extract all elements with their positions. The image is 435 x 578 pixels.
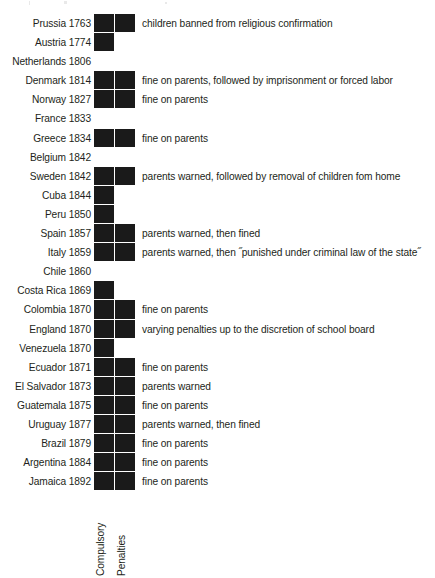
cell-compulsory [94, 472, 115, 491]
cell-penalties [115, 129, 136, 148]
row-marks [94, 358, 136, 377]
cell-compulsory [94, 281, 115, 300]
cell-penalties [115, 148, 136, 167]
row-label-country-year: Norway 1827 [0, 90, 94, 109]
table-row: France 1833 [0, 109, 435, 128]
cell-penalties [115, 224, 136, 243]
row-label-country-year: Austria 1774 [0, 33, 94, 52]
row-marks [94, 339, 136, 358]
row-label-country-year: Argentina 1884 [0, 453, 94, 472]
cell-compulsory [94, 52, 115, 71]
row-marks [94, 109, 136, 128]
row-marks [94, 243, 136, 262]
table-row: Venezuela 1870 [0, 339, 435, 358]
cell-penalties [115, 205, 136, 224]
table-row: Sweden 1842parents warned, followed by r… [0, 167, 435, 186]
cell-compulsory [94, 186, 115, 205]
cell-penalties [115, 52, 136, 71]
row-penalty-description: parents warned, followed by removal of c… [136, 167, 400, 186]
cell-compulsory [94, 453, 115, 472]
row-label-country-year: Ecuador 1871 [0, 358, 94, 377]
cell-compulsory [94, 205, 115, 224]
row-penalty-description: fine on parents [136, 434, 208, 453]
table-row: Italy 1859parents warned, then ˝punished… [0, 243, 435, 262]
row-marks [94, 262, 136, 281]
cell-penalties [115, 320, 136, 339]
cell-compulsory [94, 300, 115, 319]
cell-penalties [115, 339, 136, 358]
cell-compulsory [94, 415, 115, 434]
row-penalty-description: fine on parents [136, 300, 208, 319]
cell-compulsory [94, 71, 115, 90]
row-label-country-year: Uruguay 1877 [0, 415, 94, 434]
row-marks [94, 320, 136, 339]
cell-compulsory [94, 377, 115, 396]
column-header-compulsory: Compulsory [95, 523, 106, 576]
table-row: Cuba 1844 [0, 186, 435, 205]
table-row: Jamaica 1892fine on parents [0, 472, 435, 491]
cell-compulsory [94, 148, 115, 167]
cell-penalties [115, 453, 136, 472]
row-marks [94, 281, 136, 300]
row-penalty-description: fine on parents [136, 90, 208, 109]
row-marks [94, 52, 136, 71]
row-marks [94, 90, 136, 109]
row-penalty-description: fine on parents [136, 396, 208, 415]
cell-penalties [115, 377, 136, 396]
table-row: Belgium 1842 [0, 148, 435, 167]
row-label-country-year: Prussia 1763 [0, 14, 94, 33]
row-marks [94, 71, 136, 90]
table-row: Chile 1860 [0, 262, 435, 281]
cell-penalties [115, 415, 136, 434]
cell-compulsory [94, 243, 115, 262]
row-marks [94, 33, 136, 52]
cell-compulsory [94, 396, 115, 415]
cell-penalties [115, 90, 136, 109]
row-marks [94, 148, 136, 167]
row-penalty-description: parents warned [136, 377, 211, 396]
row-penalty-description: parents warned, then fined [136, 415, 260, 434]
cell-compulsory [94, 320, 115, 339]
cell-penalties [115, 14, 136, 33]
cell-compulsory [94, 129, 115, 148]
cell-penalties [115, 358, 136, 377]
row-penalty-description: fine on parents [136, 358, 208, 377]
row-label-country-year: Guatemala 1875 [0, 396, 94, 415]
row-marks [94, 129, 136, 148]
row-label-country-year: Peru 1850 [0, 205, 94, 224]
row-label-country-year: Brazil 1879 [0, 434, 94, 453]
row-label-country-year: Costa Rica 1869 [0, 281, 94, 300]
table-row: Ecuador 1871fine on parents [0, 358, 435, 377]
table-row: Norway 1827fine on parents [0, 90, 435, 109]
cell-penalties [115, 472, 136, 491]
cell-penalties [115, 109, 136, 128]
table-row: Guatemala 1875fine on parents [0, 396, 435, 415]
cell-compulsory [94, 14, 115, 33]
cell-penalties [115, 434, 136, 453]
cell-penalties [115, 186, 136, 205]
table-row: El Salvador 1873parents warned [0, 377, 435, 396]
cell-compulsory [94, 434, 115, 453]
row-label-country-year: Denmark 1814 [0, 71, 94, 90]
cell-penalties [115, 262, 136, 281]
cell-compulsory [94, 339, 115, 358]
row-marks [94, 300, 136, 319]
table-row: Denmark 1814fine on parents, followed by… [0, 71, 435, 90]
table-row: Austria 1774 [0, 33, 435, 52]
table-row: Uruguay 1877parents warned, then fined [0, 415, 435, 434]
cell-compulsory [94, 224, 115, 243]
row-label-country-year: Colombia 1870 [0, 300, 94, 319]
row-label-country-year: Italy 1859 [0, 243, 94, 262]
row-label-country-year: Jamaica 1892 [0, 472, 94, 491]
column-headers: Compulsory Penalties [91, 510, 151, 578]
table-row: Argentina 1884fine on parents [0, 453, 435, 472]
scan-artifact [29, 1, 30, 5]
cell-penalties [115, 396, 136, 415]
row-penalty-description: fine on parents [136, 129, 208, 148]
row-label-country-year: Belgium 1842 [0, 148, 94, 167]
table-row: Prussia 1763children banned from religio… [0, 14, 435, 33]
cell-penalties [115, 300, 136, 319]
row-penalty-description: fine on parents [136, 472, 208, 491]
row-label-country-year: Netherlands 1806 [0, 52, 94, 71]
row-label-country-year: Chile 1860 [0, 262, 94, 281]
